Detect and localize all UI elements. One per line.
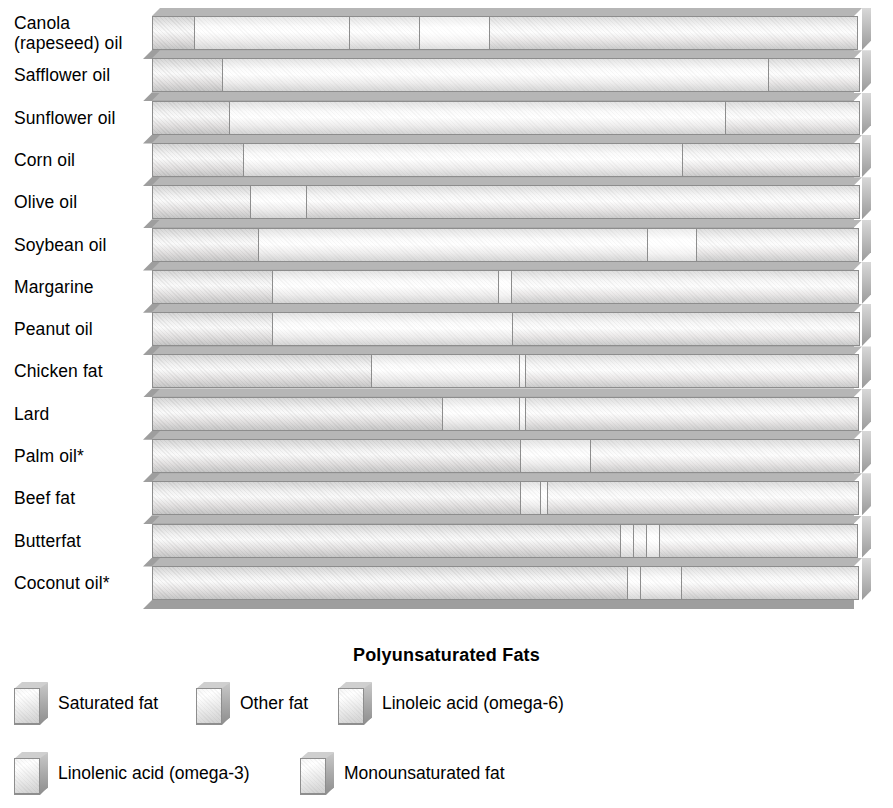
row-label-line: Canola xyxy=(14,13,146,33)
bar-segment-la xyxy=(272,312,513,346)
bar-right-face xyxy=(862,304,871,346)
bar-segment-other xyxy=(627,566,641,600)
legend-item-other[interactable]: Other fat xyxy=(196,672,308,734)
bar-segment-la xyxy=(250,185,307,219)
bar-segment-la xyxy=(633,524,647,558)
chart-row: Coconut oil* xyxy=(0,562,893,604)
bar-segment-other xyxy=(194,16,350,50)
chart-row: Margarine xyxy=(0,266,893,308)
legend-row-2: Linolenic acid (omega-3)Monounsaturated … xyxy=(0,742,893,804)
stacked-bar xyxy=(152,101,862,135)
bar-segment-ala xyxy=(646,524,660,558)
row-label-canola-rapeseed-oil: Canola(rapeseed) oil xyxy=(14,12,146,54)
bar-segment-la xyxy=(272,270,499,304)
legend-item-ala[interactable]: Linolenic acid (omega-3) xyxy=(14,742,250,804)
bar-segment-mufa xyxy=(696,228,859,262)
bar-shadow-slab xyxy=(143,600,854,609)
swatch-side-face xyxy=(325,752,334,794)
bar-top-face xyxy=(152,516,862,524)
row-label-olive-oil: Olive oil xyxy=(14,181,146,223)
bar-right-face xyxy=(862,220,871,262)
stacked-bar-chart: Canola(rapeseed) oilSafflower oilSunflow… xyxy=(0,0,893,808)
legend-item-la[interactable]: Linoleic acid (omega-6) xyxy=(338,672,564,734)
stacked-bar xyxy=(152,354,862,388)
swatch-face-face xyxy=(14,758,40,794)
row-label-line: Olive oil xyxy=(14,192,146,212)
bar-front-face xyxy=(152,270,862,304)
row-label-line: Lard xyxy=(14,404,146,424)
bar-front-face xyxy=(152,397,862,431)
bar-front-face xyxy=(152,228,862,262)
row-label-line: Butterfat xyxy=(14,531,146,551)
bar-top-face xyxy=(152,304,862,312)
bar-right-face xyxy=(862,473,871,515)
bar-segment-mufa xyxy=(547,481,859,515)
bar-top-face xyxy=(152,346,862,354)
bar-segment-sat xyxy=(152,354,372,388)
stacked-bar xyxy=(152,524,862,558)
bar-right-face xyxy=(862,50,871,92)
bar-top-face xyxy=(152,135,862,143)
bar-segment-la xyxy=(520,481,541,515)
bar-segment-sat xyxy=(152,524,621,558)
bar-right-face xyxy=(862,558,871,600)
row-label-chicken-fat: Chicken fat xyxy=(14,350,146,392)
bar-right-face xyxy=(862,431,871,473)
bar-front-face xyxy=(152,101,862,135)
row-label-line: Corn oil xyxy=(14,150,146,170)
bar-right-face xyxy=(862,135,871,177)
bar-top-face xyxy=(152,389,862,397)
stacked-bar xyxy=(152,312,862,346)
chart-row: Chicken fat xyxy=(0,350,893,392)
bar-segment-sat xyxy=(152,16,195,50)
stacked-bar xyxy=(152,16,862,50)
swatch-side-face xyxy=(363,682,372,724)
bar-right-face xyxy=(862,346,871,388)
legend-swatch-mufa xyxy=(300,752,334,794)
bar-segment-ala xyxy=(647,228,697,262)
chart-row: Canola(rapeseed) oil xyxy=(0,12,893,54)
chart-row: Safflower oil xyxy=(0,54,893,96)
bar-segment-mufa xyxy=(489,16,858,50)
bar-top-face xyxy=(152,262,862,270)
legend-label-ala: Linolenic acid (omega-3) xyxy=(58,763,250,784)
bar-top-face xyxy=(152,8,862,16)
row-label-line: Peanut oil xyxy=(14,319,146,339)
bar-segment-sat xyxy=(152,58,223,92)
bar-right-face xyxy=(862,177,871,219)
bar-segment-la xyxy=(229,101,726,135)
legend-item-mufa[interactable]: Monounsaturated fat xyxy=(300,742,505,804)
swatch-face-face xyxy=(300,758,326,794)
bar-top-face xyxy=(152,50,862,58)
stacked-bar xyxy=(152,397,862,431)
swatch-face-face xyxy=(196,688,222,724)
bar-front-face xyxy=(152,439,862,473)
legend-label-la: Linoleic acid (omega-6) xyxy=(382,693,564,714)
row-label-safflower-oil: Safflower oil xyxy=(14,54,146,96)
bar-segment-mufa xyxy=(681,566,859,600)
bar-front-face xyxy=(152,312,862,346)
bar-segment-ala xyxy=(498,270,512,304)
legend-item-sat[interactable]: Saturated fat xyxy=(14,672,158,734)
chart-row: Beef fat xyxy=(0,477,893,519)
row-label-corn-oil: Corn oil xyxy=(14,139,146,181)
bar-segment-mufa xyxy=(512,312,860,346)
bar-top-face xyxy=(152,93,862,101)
bar-front-face xyxy=(152,16,862,50)
bar-front-face xyxy=(152,354,862,388)
bar-segment-la xyxy=(371,354,520,388)
bar-segment-mufa xyxy=(682,143,860,177)
bar-segment-mufa xyxy=(768,58,860,92)
row-label-sunflower-oil: Sunflower oil xyxy=(14,97,146,139)
bar-top-face xyxy=(152,473,862,481)
row-label-line: Margarine xyxy=(14,277,146,297)
row-label-line: Palm oil* xyxy=(14,446,146,466)
legend-row-1: Saturated fatOther fatLinoleic acid (ome… xyxy=(0,672,893,734)
stacked-bar xyxy=(152,481,862,515)
stacked-bar xyxy=(152,58,862,92)
stacked-bar xyxy=(152,228,862,262)
stacked-bar xyxy=(152,566,862,600)
bar-top-face xyxy=(152,558,862,566)
swatch-side-face xyxy=(39,682,48,724)
row-label-line: Beef fat xyxy=(14,488,146,508)
